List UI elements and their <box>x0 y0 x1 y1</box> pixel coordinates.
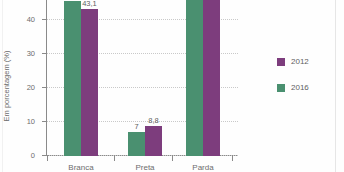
y-axis-line <box>46 0 47 156</box>
y-axis-tick-label: 0 <box>31 151 35 160</box>
y-axis-tick-label: 10 <box>27 117 35 126</box>
y-axis-tick-label: 40 <box>27 15 35 24</box>
bar-group: 46,847,1Parda <box>186 0 220 156</box>
bar-group: 45,743,1Branca <box>64 0 98 156</box>
y-axis-tick-label: 20 <box>27 83 35 92</box>
legend-swatch-2012 <box>277 58 285 66</box>
bar-value-label: 8,8 <box>148 116 158 125</box>
x-axis-category-label: Branca <box>68 163 93 172</box>
bar-2012-parda[interactable]: 47,1 <box>203 0 220 156</box>
bar-2012-preta[interactable]: 8,8 <box>145 126 162 156</box>
bar-group: 78,8Preta <box>128 0 162 156</box>
y-axis-tick-label: 30 <box>27 49 35 58</box>
bar-value-label: 7 <box>134 122 138 131</box>
y-axis-title: Em porcentagem (%) <box>2 51 11 122</box>
x-axis-category-label: Parda <box>192 163 213 172</box>
legend-item-2016[interactable]: 2016 <box>277 83 309 92</box>
legend-label-2016: 2016 <box>291 83 309 92</box>
y-axis-tick: 20 <box>42 87 47 88</box>
x-axis-separator <box>232 155 233 161</box>
legend-label-2012: 2012 <box>291 57 309 66</box>
page-right-edge <box>335 0 336 172</box>
bar-2012-branca[interactable]: 43,1 <box>81 9 98 156</box>
y-axis-tick: 30 <box>42 53 47 54</box>
legend: 2012 2016 <box>277 57 309 109</box>
legend-swatch-2016 <box>277 84 285 92</box>
x-axis-separator <box>172 155 173 161</box>
y-axis-tick: 40 <box>42 19 47 20</box>
bar-2016-preta[interactable]: 7 <box>128 132 145 156</box>
bar-value-label: 43,1 <box>82 0 97 8</box>
bar-2016-branca[interactable]: 45,7 <box>64 1 81 156</box>
y-axis-tick: 10 <box>42 121 47 122</box>
x-axis-separator <box>114 155 115 161</box>
x-axis-category-label: Preta <box>135 163 154 172</box>
legend-item-2012[interactable]: 2012 <box>277 57 309 66</box>
plot-area: 010203040 45,743,1Branca78,8Preta46,847,… <box>46 0 238 156</box>
bar-2016-parda[interactable]: 46,8 <box>186 0 203 156</box>
chart-page: Em porcentagem (%) 010203040 45,743,1Bra… <box>0 0 344 172</box>
x-axis-separator <box>47 155 48 161</box>
